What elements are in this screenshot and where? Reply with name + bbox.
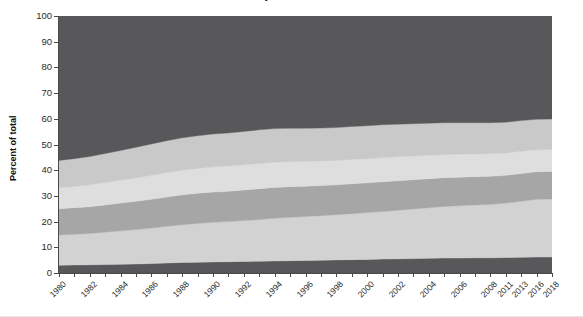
x-tick (244, 273, 245, 277)
x-tick-label: 2004 (405, 279, 438, 312)
x-tick-label: 1988 (159, 279, 192, 312)
x-tick (136, 273, 137, 277)
x-tick-label: 2006 (436, 279, 469, 312)
y-tick-label: 30 (0, 190, 52, 201)
y-tick (54, 145, 58, 146)
x-tick-label: 1982 (66, 279, 99, 312)
x-tick (429, 273, 430, 277)
y-tick (54, 170, 58, 171)
x-tick-label: 2002 (374, 279, 407, 312)
y-tick (54, 16, 58, 17)
x-tick-label: 1998 (313, 279, 346, 312)
y-axis-line (58, 16, 59, 274)
x-tick (290, 273, 291, 277)
y-tick-label: 20 (0, 216, 52, 227)
y-tick-label: 0 (0, 267, 52, 278)
x-tick (552, 273, 553, 277)
chart-title: by value chain (0, 0, 583, 1)
x-tick-label: 1996 (282, 279, 315, 312)
x-tick (275, 273, 276, 277)
x-tick (383, 273, 384, 277)
x-tick (105, 273, 106, 277)
x-tick (167, 273, 168, 277)
x-tick (90, 273, 91, 277)
x-tick (198, 273, 199, 277)
x-tick (367, 273, 368, 277)
x-tick-label: 1986 (128, 279, 161, 312)
x-tick (259, 273, 260, 277)
y-tick-label: 60 (0, 113, 52, 124)
y-tick (54, 42, 58, 43)
x-tick (537, 273, 538, 277)
x-tick (413, 273, 414, 277)
y-tick (54, 247, 58, 248)
x-tick (74, 273, 75, 277)
x-tick (321, 273, 322, 277)
y-tick (54, 273, 58, 274)
x-tick-label: 1984 (97, 279, 130, 312)
x-tick (59, 273, 60, 277)
plot-area (59, 16, 552, 273)
y-tick-label: 50 (0, 139, 52, 150)
x-tick (121, 273, 122, 277)
x-tick (182, 273, 183, 277)
y-tick-label: 70 (0, 87, 52, 98)
x-tick (151, 273, 152, 277)
x-tick (521, 273, 522, 277)
y-tick (54, 119, 58, 120)
y-tick (54, 67, 58, 68)
x-tick (213, 273, 214, 277)
y-tick (54, 222, 58, 223)
x-tick (460, 273, 461, 277)
x-tick (352, 273, 353, 277)
y-tick (54, 93, 58, 94)
y-tick-label: 40 (0, 164, 52, 175)
x-tick (444, 273, 445, 277)
x-tick (336, 273, 337, 277)
x-tick (475, 273, 476, 277)
y-tick (54, 196, 58, 197)
stacked-area-svg (59, 16, 552, 273)
y-tick-label: 80 (0, 61, 52, 72)
x-tick (490, 273, 491, 277)
x-tick-label: 1994 (251, 279, 284, 312)
x-tick-label: 1980 (36, 279, 69, 312)
chart-root: by value chain Percent of total 01020304… (0, 0, 583, 317)
x-tick (306, 273, 307, 277)
y-tick-label: 10 (0, 241, 52, 252)
x-tick-label: 1990 (190, 279, 223, 312)
x-tick (398, 273, 399, 277)
y-tick-label: 90 (0, 36, 52, 47)
x-tick-label: 1992 (220, 279, 253, 312)
y-tick-label: 100 (0, 10, 52, 21)
x-tick-label: 2000 (344, 279, 377, 312)
x-tick (228, 273, 229, 277)
x-tick (506, 273, 507, 277)
